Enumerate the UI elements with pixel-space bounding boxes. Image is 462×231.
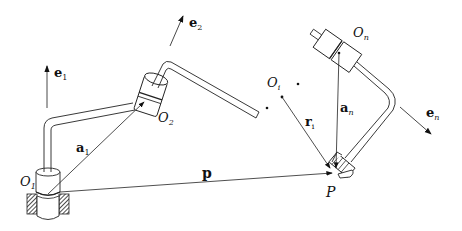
en-label: en <box>426 105 439 122</box>
ri-label: ri <box>305 114 315 131</box>
O1-label: O1 <box>20 174 36 191</box>
end-effector <box>329 152 355 178</box>
e1-label: e1 <box>54 65 67 82</box>
an-label: an <box>340 100 354 117</box>
p-vector <box>60 173 332 192</box>
a1-label: a1 <box>76 140 90 157</box>
e2-axis-arrow <box>170 16 183 46</box>
P-label: P <box>325 184 336 200</box>
continuation-dot <box>266 107 269 110</box>
Oi-label: Oi <box>267 75 281 92</box>
continuation-dot <box>297 83 300 86</box>
an-vector <box>336 53 339 168</box>
ri-vector <box>282 97 330 168</box>
link-1 <box>44 103 135 172</box>
e2-label: e2 <box>189 15 202 32</box>
O2-label: O2 <box>158 110 174 127</box>
robot-arm-diagram: e1 e2 a1 p <box>0 0 462 231</box>
On-label: On <box>353 25 369 42</box>
p-label: p <box>202 165 212 181</box>
